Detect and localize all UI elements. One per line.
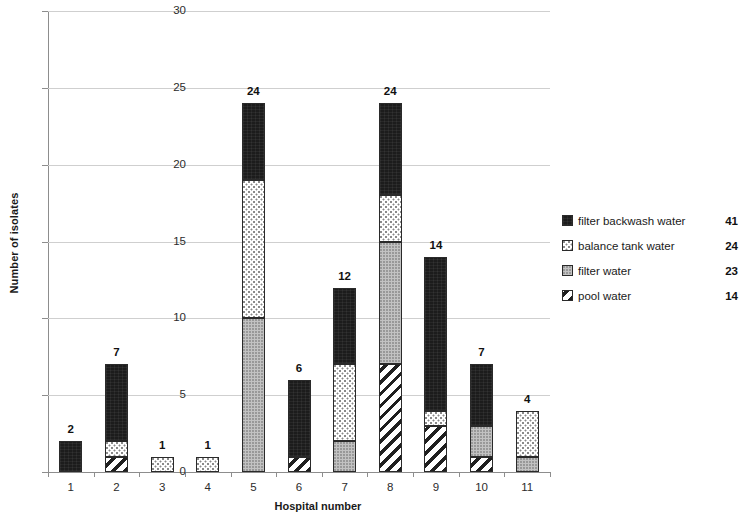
y-axis-tick xyxy=(42,318,48,319)
bar-hospital-7[interactable] xyxy=(333,288,356,472)
bar-hospital-8[interactable] xyxy=(379,103,402,472)
dotted-swatch-icon xyxy=(562,240,573,251)
x-axis-tick xyxy=(367,472,368,477)
x-axis-tick-label: 6 xyxy=(279,481,319,493)
x-axis-tick-label: 5 xyxy=(233,481,273,493)
bar-segment-filter-water[interactable] xyxy=(470,426,493,457)
gray-swatch-icon xyxy=(562,265,573,276)
bar-segment-pool-water[interactable] xyxy=(288,457,311,472)
x-axis-tick-label: 9 xyxy=(416,481,456,493)
bar-hospital-5[interactable] xyxy=(242,103,265,472)
legend-item-count: 41 xyxy=(722,215,738,227)
x-axis-tick-label: 7 xyxy=(325,481,365,493)
bar-value-label: 7 xyxy=(93,346,139,358)
y-axis-title: Number of isolates xyxy=(8,168,20,318)
x-axis-tick xyxy=(139,472,140,477)
y-axis-tick-label: 20 xyxy=(146,158,186,170)
legend-item-pool-water[interactable]: pool water14 xyxy=(562,283,738,308)
bar-hospital-11[interactable] xyxy=(516,411,539,472)
gridline xyxy=(48,242,550,243)
bar-segment-filter-backwash-water[interactable] xyxy=(288,380,311,457)
bar-segment-pool-water[interactable] xyxy=(424,426,447,472)
bar-segment-balance-tank-water[interactable] xyxy=(379,195,402,241)
legend-item-balance-tank-water[interactable]: balance tank water24 xyxy=(562,233,738,258)
bar-segment-filter-backwash-water[interactable] xyxy=(470,364,493,425)
bar-value-label: 24 xyxy=(230,85,276,97)
legend-item-filter-water[interactable]: filter water23 xyxy=(562,258,738,283)
bar-value-label: 7 xyxy=(459,346,505,358)
x-axis-tick-label: 10 xyxy=(462,481,502,493)
gridline xyxy=(48,318,550,319)
y-axis-tick-label: 30 xyxy=(146,4,186,16)
x-axis-tick-label: 11 xyxy=(507,481,547,493)
x-axis-line xyxy=(48,472,550,473)
y-axis-tick xyxy=(42,395,48,396)
bar-segment-filter-backwash-water[interactable] xyxy=(379,103,402,195)
x-axis-tick-label: 1 xyxy=(51,481,91,493)
y-axis-tick xyxy=(42,11,48,12)
y-axis-tick xyxy=(42,242,48,243)
legend-item-label: balance tank water xyxy=(578,240,722,252)
bar-value-label: 2 xyxy=(48,423,94,435)
x-axis-tick xyxy=(459,472,460,477)
bar-segment-filter-water[interactable] xyxy=(333,441,356,472)
legend-item-filter-backwash-water[interactable]: filter backwash water41 xyxy=(562,208,738,233)
bar-segment-balance-tank-water[interactable] xyxy=(333,364,356,441)
bar-segment-balance-tank-water[interactable] xyxy=(196,457,219,472)
x-axis-tick-label: 2 xyxy=(96,481,136,493)
bar-segment-balance-tank-water[interactable] xyxy=(516,411,539,457)
bar-value-label: 6 xyxy=(276,362,322,374)
legend-item-count: 14 xyxy=(722,290,738,302)
gridline xyxy=(48,11,550,12)
y-axis-tick xyxy=(42,165,48,166)
bar-segment-pool-water[interactable] xyxy=(105,457,128,472)
bar-segment-pool-water[interactable] xyxy=(470,457,493,472)
bar-segment-filter-backwash-water[interactable] xyxy=(424,257,447,411)
gridline xyxy=(48,165,550,166)
y-axis-tick-label: 25 xyxy=(146,81,186,93)
x-axis-tick xyxy=(48,472,49,477)
x-axis-tick-label: 8 xyxy=(370,481,410,493)
bar-hospital-10[interactable] xyxy=(470,364,493,472)
legend-item-label: pool water xyxy=(578,290,722,302)
bar-hospital-2[interactable] xyxy=(105,364,128,472)
bar-value-label: 24 xyxy=(367,85,413,97)
legend-item-count: 24 xyxy=(722,240,738,252)
y-axis-tick-label: 0 xyxy=(146,465,186,477)
bar-segment-pool-water[interactable] xyxy=(379,364,402,472)
bar-value-label: 1 xyxy=(185,439,231,451)
legend-item-count: 23 xyxy=(722,265,738,277)
x-axis-tick xyxy=(322,472,323,477)
bar-segment-filter-backwash-water[interactable] xyxy=(59,441,82,472)
diagonal-stripes-swatch-icon xyxy=(562,290,573,301)
x-axis-tick xyxy=(504,472,505,477)
bar-hospital-6[interactable] xyxy=(288,380,311,472)
bar-segment-filter-water[interactable] xyxy=(516,457,539,472)
bar-segment-filter-water[interactable] xyxy=(379,242,402,365)
bar-segment-filter-water[interactable] xyxy=(242,318,265,472)
bar-hospital-4[interactable] xyxy=(196,457,219,472)
bar-segment-balance-tank-water[interactable] xyxy=(424,411,447,426)
bar-value-label: 4 xyxy=(504,393,550,405)
bar-segment-filter-backwash-water[interactable] xyxy=(105,364,128,441)
x-axis-tick xyxy=(94,472,95,477)
x-axis-tick-label: 3 xyxy=(142,481,182,493)
x-axis-tick xyxy=(276,472,277,477)
bar-hospital-1[interactable] xyxy=(59,441,82,472)
gridline xyxy=(48,88,550,89)
x-axis-title: Hospital number xyxy=(233,500,403,512)
solid-black-swatch-icon xyxy=(562,215,573,226)
x-axis-tick xyxy=(231,472,232,477)
bar-segment-balance-tank-water[interactable] xyxy=(105,441,128,456)
legend-item-label: filter water xyxy=(578,265,722,277)
bar-value-label: 12 xyxy=(322,270,368,282)
stacked-bar-chart: Number of isolates Hospital number 05101… xyxy=(0,0,742,521)
bar-hospital-9[interactable] xyxy=(424,257,447,472)
y-axis-tick-label: 15 xyxy=(146,235,186,247)
bar-value-label: 1 xyxy=(139,439,185,451)
bar-value-label: 14 xyxy=(413,239,459,251)
bar-segment-filter-backwash-water[interactable] xyxy=(333,288,356,365)
bar-segment-filter-backwash-water[interactable] xyxy=(242,103,265,180)
legend: filter backwash water41balance tank wate… xyxy=(562,208,738,308)
bar-segment-balance-tank-water[interactable] xyxy=(242,180,265,318)
